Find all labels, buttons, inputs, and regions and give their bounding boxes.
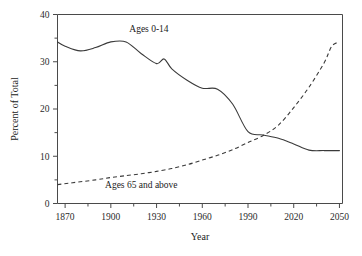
x-tick-label: 2020: [284, 212, 303, 222]
series-label-1: Ages 0-14: [129, 24, 169, 34]
x-tick-label: 1930: [147, 212, 166, 222]
plot-box-border: [58, 15, 343, 204]
x-tick-label: 1960: [193, 212, 212, 222]
x-tick-label: 1990: [239, 212, 258, 222]
x-tick-label: 1900: [101, 212, 120, 222]
y-axis-tick-labels: 010203040: [40, 10, 50, 209]
y-tick-label: 0: [45, 199, 50, 209]
plot-frame: [58, 15, 343, 204]
x-tick-label: 2050: [330, 212, 349, 222]
series-label-2: Ages 65 and above: [105, 180, 178, 190]
y-tick-label: 10: [40, 152, 50, 162]
x-tick-label: 1870: [56, 212, 75, 222]
x-axis-tick-labels: 1870190019301960199020202050: [56, 212, 350, 222]
chart-container: 1870190019301960199020202050 010203040 A…: [0, 0, 362, 256]
series-line-1: [58, 41, 340, 151]
y-tick-label: 30: [40, 57, 50, 67]
series-annotations: Ages 0-14Ages 65 and above: [105, 24, 178, 190]
x-axis-title: Year: [191, 231, 210, 242]
y-axis-ticks: [53, 15, 58, 204]
line-chart: 1870190019301960199020202050 010203040 A…: [0, 0, 362, 256]
y-tick-label: 40: [40, 10, 50, 20]
y-tick-label: 20: [40, 104, 50, 114]
series-line-2: [58, 42, 340, 185]
x-axis-ticks: [65, 204, 339, 209]
data-series-group: [58, 41, 340, 185]
y-axis-title: Percent of Total: [9, 77, 20, 141]
